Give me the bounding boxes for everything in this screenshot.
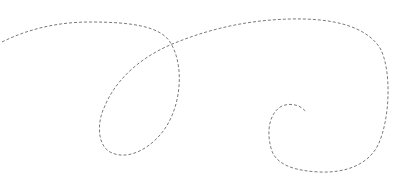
background: [0, 0, 408, 181]
dashed-curve-canvas: [0, 0, 408, 181]
